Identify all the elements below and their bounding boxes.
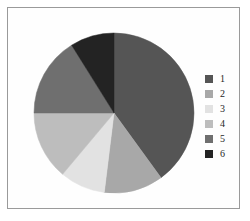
legend-swatch-icon-6 [205,150,213,158]
legend-swatch-icon-5 [205,135,213,143]
legend-label-4: 4 [220,119,225,129]
legend-label-6: 6 [220,149,225,159]
legend-item-3: 3 [205,102,249,116]
legend-label-3: 3 [220,104,225,114]
pie-slice-group [34,33,194,193]
legend-swatch-icon-2 [205,90,213,98]
pie-chart-figure: 123456 [0,0,250,221]
legend-item-6: 6 [205,147,249,161]
legend-label-1: 1 [220,74,225,84]
legend-item-1: 1 [205,72,249,86]
legend-swatch-icon-3 [205,105,213,113]
plot-frame: 123456 [7,7,240,209]
legend-item-2: 2 [205,87,249,101]
legend-item-5: 5 [205,132,249,146]
chart-legend: 123456 [205,72,249,162]
legend-item-4: 4 [205,117,249,131]
legend-swatch-icon-1 [205,75,213,83]
legend-swatch-icon-4 [205,120,213,128]
legend-label-5: 5 [220,134,225,144]
legend-label-2: 2 [220,89,225,99]
pie-svg [28,20,200,206]
pie-plot-area [28,20,200,206]
